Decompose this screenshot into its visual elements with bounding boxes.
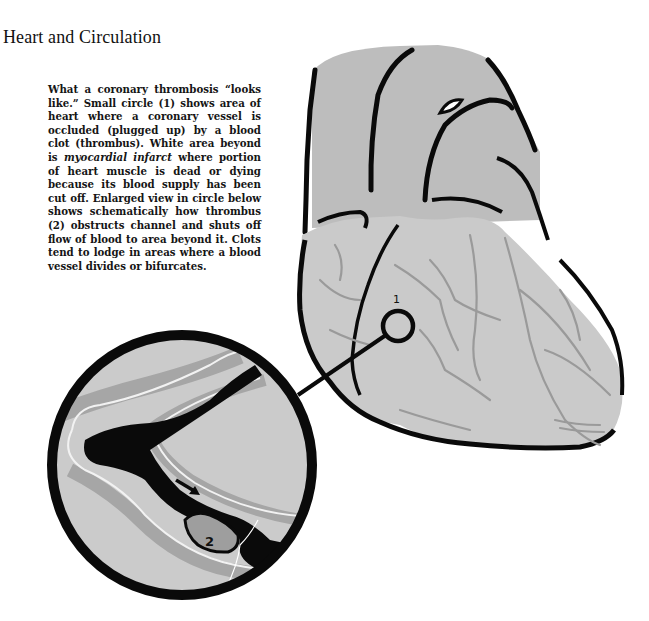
label-2: 2 bbox=[205, 534, 214, 549]
coronary-thrombosis-illustration: 1 2 bbox=[0, 0, 649, 621]
great-vessels bbox=[305, 45, 540, 232]
label-1: 1 bbox=[393, 293, 400, 306]
enlarged-view: 2 bbox=[30, 335, 312, 595]
